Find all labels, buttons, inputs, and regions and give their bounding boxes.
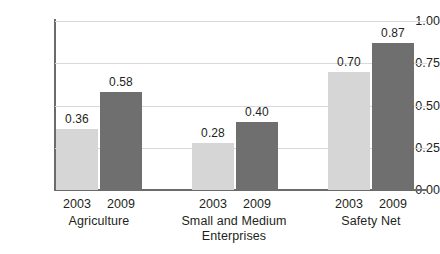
bar-value-agriculture-2009: 0.58 [100,76,142,88]
bar-value-sme-2009: 0.40 [236,106,278,118]
x-axis-year-label-agriculture-2003: 2003 [56,198,98,211]
x-axis-year-label-safety-net-2009: 2009 [372,198,414,211]
group-label-line: Enterprises [170,229,298,244]
bar-safety-net-2009 [372,43,414,190]
x-axis-year-label-safety-net-2003: 2003 [328,198,370,211]
bar-value-safety-net-2009: 0.87 [372,27,414,39]
group-label-line: Safety Net [324,214,418,229]
x-axis-year-label-sme-2003: 2003 [192,198,234,211]
bar-sme-2009 [236,122,278,190]
x-axis-group-label-agriculture: Agriculture [54,214,144,229]
x-axis-group-label-sme: Small and Medium Enterprises [170,214,298,243]
bar-chart: 1.00 0.75 0.50 0.25 0.00 0.36 0.58 0.28 … [0,0,440,254]
group-label-line: Small and Medium [170,214,298,229]
x-axis-year-label-agriculture-2009: 2009 [100,198,142,211]
x-axis-group-label-safety-net: Safety Net [324,214,418,229]
bar-agriculture-2009 [100,92,142,190]
bar-value-agriculture-2003: 0.36 [56,113,98,125]
bar-safety-net-2003 [328,72,370,190]
bar-agriculture-2003 [56,129,98,190]
bar-sme-2003 [192,143,234,190]
bar-value-safety-net-2003: 0.70 [328,56,370,68]
x-axis-year-label-sme-2009: 2009 [236,198,278,211]
group-label-line: Agriculture [54,214,144,229]
plot-area: 0.36 0.58 0.28 0.40 0.70 0.87 [55,21,427,190]
gridline-1-00 [55,21,427,22]
bar-value-sme-2003: 0.28 [192,127,234,139]
